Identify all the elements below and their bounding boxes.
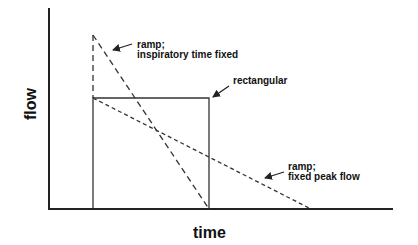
rectangular-label: rectangular — [233, 75, 288, 86]
flow-waveform-diagram: ramp; inspiratory time fixed rectangular… — [0, 0, 418, 245]
rectangular-waveform — [93, 98, 209, 209]
y-axis-label: flow — [22, 87, 39, 120]
arrow-rectangular — [213, 86, 229, 97]
ramp-fixed-peak-flow-waveform — [93, 98, 311, 209]
ramp-fixed-peak-label-line2: fixed peak flow — [288, 171, 360, 182]
ramp-inspiratory-label-line2: inspiratory time fixed — [137, 49, 238, 60]
ramp-inspiratory-time-fixed-waveform — [93, 35, 209, 209]
arrow-ramp-inspiratory — [113, 44, 132, 50]
arrow-ramp-fixed-peak — [265, 172, 284, 178]
x-axis-label: time — [193, 224, 226, 241]
